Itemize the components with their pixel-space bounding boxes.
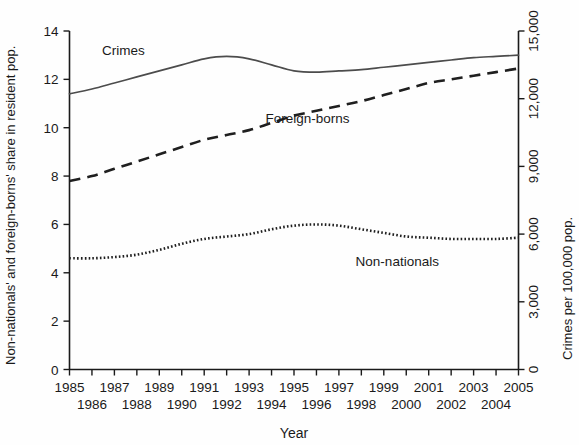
- x-axis-label: Year: [280, 425, 309, 441]
- series-paths: [70, 55, 519, 258]
- y-ticklabel-right: 12,000: [526, 78, 541, 119]
- x-ticklabel: 1986: [77, 397, 107, 412]
- y-ticklabel-right: 15,000: [526, 10, 541, 51]
- y-axis-left-ticks: 02468101214: [43, 24, 69, 378]
- x-ticklabel: 1993: [234, 380, 264, 395]
- x-ticklabel: 2004: [481, 397, 512, 412]
- y-ticklabel-left: 14: [43, 24, 59, 39]
- x-ticklabel: 1994: [257, 397, 288, 412]
- y-axis-left-label: Non-nationals' and foreign-borns' share …: [3, 46, 18, 365]
- y-axis-right-label: Crimes per 100,000 pop.: [560, 217, 575, 360]
- x-ticklabel: 1985: [54, 380, 84, 395]
- y-ticklabel-left: 2: [51, 314, 59, 329]
- y-ticklabel-left: 12: [43, 72, 58, 87]
- series-label-non-nationals: Non-nationals: [356, 254, 440, 269]
- x-ticklabel: 1996: [301, 397, 331, 412]
- x-ticklabel: 2003: [459, 380, 489, 395]
- x-ticklabel: 1988: [122, 397, 152, 412]
- series-line-crimes: [70, 55, 519, 94]
- x-axis-labels-row1: 1985198719891991199319951997199920012003…: [54, 380, 533, 395]
- plot-frame: [70, 31, 519, 370]
- y-ticklabel-left: 8: [51, 169, 59, 184]
- y-ticklabel-left: 4: [51, 266, 59, 281]
- x-ticklabel: 1997: [324, 380, 354, 395]
- x-axis-labels-row2: 1986198819901992199419961998200020022004: [77, 397, 512, 412]
- y-ticklabel-left: 10: [43, 121, 58, 136]
- y-ticklabel-right: 6,000: [526, 217, 541, 251]
- x-ticklabel: 2002: [436, 397, 466, 412]
- y-ticklabel-right: 9,000: [526, 150, 541, 184]
- chart-figure: 02468101214 03,0006,0009,00012,00015,000…: [0, 0, 579, 445]
- y-axis-right-ticks: 03,0006,0009,00012,00015,000: [519, 10, 541, 373]
- x-axis-ticks: [70, 370, 519, 376]
- y-ticklabel-left: 6: [51, 217, 59, 232]
- x-ticklabel: 1989: [144, 380, 174, 395]
- y-ticklabel-right: 3,000: [526, 285, 541, 319]
- y-ticklabel-right: 0: [526, 366, 541, 374]
- x-ticklabel: 1998: [346, 397, 376, 412]
- x-ticklabel: 1990: [167, 397, 197, 412]
- series-label-crimes: Crimes: [102, 43, 145, 58]
- x-ticklabel: 1995: [279, 380, 309, 395]
- y-ticklabel-left: 0: [51, 363, 59, 378]
- x-ticklabel: 1992: [212, 397, 242, 412]
- line-chart-svg: 02468101214 03,0006,0009,00012,00015,000…: [0, 0, 579, 445]
- x-ticklabel: 2005: [503, 380, 533, 395]
- x-ticklabel: 2000: [391, 397, 421, 412]
- x-ticklabel: 1999: [369, 380, 399, 395]
- series-line-non-nationals: [70, 224, 519, 258]
- series-label-foreign-borns: Foreign-borns: [265, 111, 349, 126]
- x-ticklabel: 1987: [99, 380, 129, 395]
- x-ticklabel: 1991: [189, 380, 219, 395]
- x-ticklabel: 2001: [414, 380, 444, 395]
